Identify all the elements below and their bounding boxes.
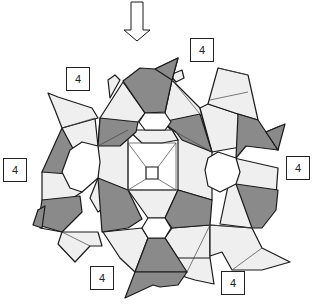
face-dark <box>98 118 138 146</box>
label-text: 4 <box>295 162 301 174</box>
down-arrow-icon <box>124 2 150 41</box>
fold-line <box>158 179 176 190</box>
opening-hexagon <box>139 113 171 130</box>
label-text: 4 <box>230 277 236 289</box>
faces-group <box>33 58 290 298</box>
face-light <box>210 225 290 270</box>
label-text: 4 <box>12 164 18 176</box>
face-dark <box>125 272 187 298</box>
label-bottom-left: 4 <box>90 266 114 290</box>
fold-line <box>128 143 146 167</box>
label-text: 4 <box>199 44 205 56</box>
fold-line <box>128 179 146 190</box>
opening-hexagon <box>142 218 171 238</box>
label-right: 4 <box>286 156 310 180</box>
label-left: 4 <box>3 158 27 182</box>
opening-square <box>146 167 158 179</box>
folded-polyhedron-diagram <box>0 0 312 304</box>
label-text: 4 <box>75 73 81 85</box>
label-text: 4 <box>99 272 105 284</box>
face-dark <box>38 196 82 232</box>
fold-line <box>158 143 176 167</box>
label-top-right: 4 <box>190 38 214 62</box>
face-light <box>58 232 102 262</box>
label-bottom-right: 4 <box>221 271 245 295</box>
label-upper-left: 4 <box>66 67 90 91</box>
